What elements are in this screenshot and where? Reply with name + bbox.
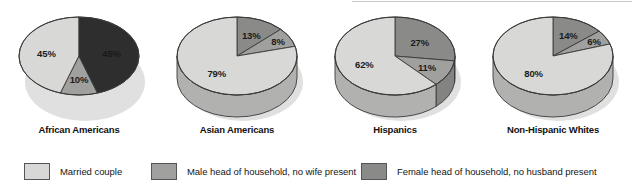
chart-title-3: Non-Hispanic Whites [474,124,632,135]
pie-chart-asian-americans: 79% 8% 13% Asian Americans [158,8,316,148]
pie-chart-african-americans: 45% 10% 45% African Americans [0,8,158,148]
slice-label-male-head: 10% [70,74,89,85]
pie-svg-3 [487,10,619,114]
legend-label-male-head: Male head of household, no wife present [187,166,356,177]
pie-graphic-0: 45% 10% 45% [13,10,145,114]
slice-label-male-head: 8% [271,36,285,47]
pie-chart-non-hispanic-whites: 80% 6% 14% Non-Hispanic Whites [474,8,632,148]
slice-label-married: 80% [524,68,543,79]
pie-graphic-3: 80% 6% 14% [487,10,619,114]
slice-label-female-head: 45% [102,47,121,58]
legend-swatch-male-head [151,163,177,180]
slice-label-married: 79% [207,67,226,78]
legend-item-married-couple: Married couple [24,161,122,181]
pie-chart-hispanics: 62% 11% 27% Hispanics [316,8,474,148]
legend-item-male-head: Male head of household, no wife present [151,161,356,181]
chart-title-2: Hispanics [316,124,474,135]
legend-label-married-couple: Married couple [60,166,122,177]
slice-label-married: 45% [37,47,56,58]
slice-label-female-head: 27% [410,36,429,47]
pie-chart-figure: 45% 10% 45% African Americans 79% 8% 13%… [0,0,632,195]
legend-label-female-head: Female head of household, no husband pre… [397,166,597,177]
pie-graphic-1: 79% 8% 13% [171,10,303,114]
legend-swatch-married-couple [24,163,50,180]
pie-svg-1 [171,10,303,114]
slice-label-female-head: 13% [242,29,261,40]
slice-label-married: 62% [355,58,374,69]
pie-svg-0 [13,10,145,114]
charts-row: 45% 10% 45% African Americans 79% 8% 13%… [0,0,632,148]
pie-graphic-2: 62% 11% 27% [329,10,461,114]
legend-item-female-head: Female head of household, no husband pre… [361,161,597,181]
chart-legend: Married couple Male head of household, n… [0,154,632,195]
pie-svg-2 [329,10,461,114]
chart-title-0: African Americans [0,124,158,135]
slice-label-female-head: 14% [559,29,578,40]
slice-label-male-head: 11% [418,61,436,72]
slice-label-male-head: 6% [587,36,601,47]
legend-swatch-female-head [361,163,387,180]
chart-title-1: Asian Americans [158,124,316,135]
